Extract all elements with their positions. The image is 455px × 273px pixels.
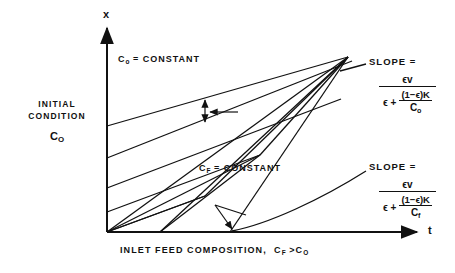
slope-co-inner-denominator-subscript: o <box>417 106 421 115</box>
y-axis-label: x <box>103 8 109 20</box>
fan-origin-arrow <box>215 205 232 229</box>
slope-co-inner-denominator: Co <box>399 101 432 115</box>
initial-condition-line2: CONDITION <box>28 111 86 121</box>
slope-co-inner-numerator: (1−ϵ)K <box>399 89 432 101</box>
fan-ray <box>230 57 348 232</box>
initial-condition-line1: INITIAL <box>38 99 75 109</box>
cf-constant-text: = CONSTANT <box>214 163 281 173</box>
x-axis-caption-lhs: C <box>274 245 282 255</box>
fan-origin-arrow-tail <box>215 205 246 215</box>
c0-constant-symbol: C <box>118 54 126 64</box>
x-axis-label: t <box>428 224 432 236</box>
leader-lines <box>232 64 366 231</box>
fan-ray <box>107 57 348 232</box>
x-axis-caption-lhs-subscript: F <box>282 249 286 256</box>
initial-condition-label: INITIAL CONDITION <box>14 98 100 122</box>
slope-co-denominator-first: ϵ + <box>383 97 396 108</box>
slope-co-fraction: ϵv ϵ + (1−ϵ)K Co <box>379 74 436 115</box>
fan-characteristic-lines <box>107 57 348 232</box>
x-axis-caption-prefix: INLET FEED COMPOSITION, <box>120 245 267 255</box>
slope-cf-inner-denominator: Cf <box>399 206 432 220</box>
initial-condition-symbol: CO <box>14 130 100 144</box>
slope-cf-denominator-first: ϵ + <box>383 202 396 213</box>
fan-ray <box>107 196 205 232</box>
slope-annotation-co: SLOPE = ϵv ϵ + (1−ϵ)K Co <box>369 56 436 115</box>
slope-annotation-cf: SLOPE = ϵv ϵ + (1−ϵ)K Cf <box>369 161 436 220</box>
c0-constant-label: Co = CONSTANT <box>118 54 200 65</box>
leader-line-slope-co <box>340 64 366 71</box>
spacing-arrow-annotation <box>205 100 238 122</box>
slope-cf-denominator: ϵ + (1−ϵ)K Cf <box>379 192 436 220</box>
slope-co-denominator: ϵ + (1−ϵ)K Co <box>379 87 436 115</box>
initial-condition-symbol-base: C <box>50 130 58 142</box>
slope-cf-inner-denominator-subscript: f <box>418 211 420 220</box>
cf-constant-symbol: C <box>199 163 207 173</box>
slope-co-inner-fraction: (1−ϵ)K Co <box>399 89 432 115</box>
leader-line-slope-cf <box>232 171 366 231</box>
slope-cf-inner-fraction: (1−ϵ)K Cf <box>399 194 432 220</box>
fan-ray <box>260 57 348 155</box>
slope-co-numerator: ϵv <box>379 74 436 87</box>
c0-constant-text: = CONSTANT <box>133 54 200 64</box>
slope-cf-numerator: ϵv <box>379 179 436 192</box>
fan-origin-arrow-annotation <box>215 205 246 229</box>
slope-cf-fraction: ϵv ϵ + (1−ϵ)K Cf <box>379 179 436 220</box>
figure-page: x t INITIAL CONDITION CO Co = CONSTANT C… <box>0 0 455 273</box>
x-axis-caption-rhs: C <box>296 245 304 255</box>
slope-co-title: SLOPE = <box>369 56 436 67</box>
initial-condition-symbol-subscript: O <box>58 135 64 144</box>
cf-constant-subscript: F <box>207 167 211 174</box>
c0-constant-subscript: o <box>126 58 130 65</box>
cf-constant-label: CF = CONSTANT <box>199 163 281 174</box>
x-axis-caption: INLET FEED COMPOSITION, CF >CO <box>120 245 308 256</box>
slope-cf-title: SLOPE = <box>369 161 436 172</box>
slope-cf-inner-numerator: (1−ϵ)K <box>399 194 432 206</box>
x-axis-caption-rhs-subscript: O <box>303 249 308 256</box>
